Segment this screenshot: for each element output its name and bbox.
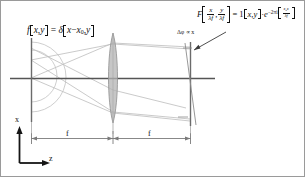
- fourier-arg-y: y: [253, 9, 257, 19]
- exponent-group: −2πix0xλf: [268, 9, 295, 15]
- frac-exponent: x0xλf: [282, 7, 291, 18]
- frac-x-lambda-f: xλf: [206, 7, 215, 23]
- fourier-bracket-lhs: xλf,yλf: [202, 7, 230, 23]
- fourier-equals: =: [232, 9, 237, 19]
- delta-arg-y: y: [86, 25, 90, 35]
- fourier-bracket-rhs: x,y: [244, 10, 262, 19]
- source-bracket-lhs: x,y: [30, 26, 49, 36]
- source-equals: =: [51, 25, 56, 35]
- axis-x-label: x: [15, 116, 19, 124]
- frac-y-lambda-f: yλf: [217, 7, 226, 23]
- exp-x-symbol: x: [287, 6, 289, 11]
- frac-exp-den: λf: [283, 14, 290, 19]
- distance-label-second-f: f: [148, 130, 151, 138]
- fourier-plane-formula: Fxλf,yλf = 1x,y·e−2πix0xλf: [197, 7, 295, 23]
- source-arg-y: y: [40, 25, 44, 35]
- source-plane-formula: fx,y = δx−x0,y: [27, 26, 94, 36]
- frac-y-den: λf: [218, 15, 225, 22]
- exponent-prefix: −2πi: [268, 9, 278, 15]
- optics-figure: fx,y = δx−x0,y Fxλf,yλf = 1x,y·e−2πix0xλ…: [0, 0, 305, 177]
- exponent-bracket: x0xλf: [278, 7, 295, 18]
- phase-gradient-annotation: Δφ ∝ x: [177, 29, 194, 35]
- source-bracket-rhs: x−x0,y: [63, 26, 94, 36]
- axis-z-label: z: [49, 155, 53, 163]
- distance-label-first-f: f: [66, 130, 69, 138]
- frac-x-den: λf: [207, 15, 214, 22]
